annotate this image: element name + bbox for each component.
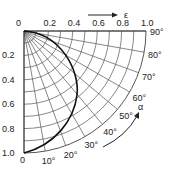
top-tick-label: 0.6 xyxy=(92,18,105,28)
angle-tick-label: 70° xyxy=(142,72,156,82)
top-tick-label: 0.4 xyxy=(68,18,81,28)
bottom-zero-label: 0 xyxy=(20,155,25,165)
polar-diagram: 00.20.40.60.81.00.20.40.60.81.00ε10°20°3… xyxy=(0,0,169,178)
left-tick-label: 0.8 xyxy=(2,124,15,134)
angle-tick-label: 90° xyxy=(150,27,164,37)
angle-tick-label: 20° xyxy=(64,150,78,160)
left-tick-label: 0.6 xyxy=(2,99,15,109)
left-tick-label: 0.2 xyxy=(2,50,15,60)
angle-tick-label: 40° xyxy=(103,127,117,137)
angle-tick-label: 60° xyxy=(132,93,146,103)
arrow-head-icon xyxy=(134,112,139,119)
angle-tick-label: 50° xyxy=(119,111,133,121)
alpha-label: α xyxy=(138,102,143,112)
angle-tick-label: 80° xyxy=(148,50,162,60)
left-tick-label: 1.0 xyxy=(2,148,15,158)
epsilon-label: ε xyxy=(124,10,128,20)
angle-tick-label: 10° xyxy=(42,156,56,166)
arrow-head-icon xyxy=(112,13,118,18)
top-tick-label: 0 xyxy=(16,18,21,28)
left-tick-label: 0.4 xyxy=(2,75,15,85)
top-tick-label: 0.2 xyxy=(43,18,56,28)
angle-tick-label: 30° xyxy=(85,140,99,150)
